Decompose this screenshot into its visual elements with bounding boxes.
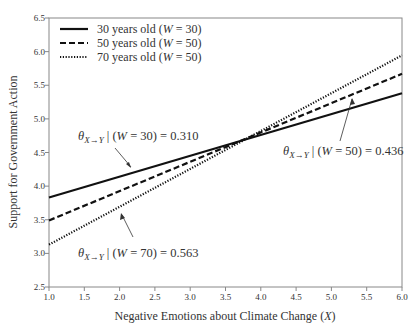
x-axis: 1.01.52.02.53.03.54.04.55.05.56.0 [43, 287, 408, 302]
x-tick-label: 3.5 [220, 292, 232, 302]
y-tick-label: 2.5 [34, 282, 46, 292]
y-tick-label: 6.5 [34, 13, 46, 23]
x-tick-label: 2.5 [149, 292, 161, 302]
y-axis: 2.53.03.54.04.55.05.56.06.5 [34, 13, 49, 292]
legend-label-70: 70 years old (W = 50) [97, 50, 201, 64]
x-tick-label: 2.0 [114, 292, 126, 302]
x-tick-label: 5.5 [361, 292, 373, 302]
x-tick-label: 1.0 [43, 292, 55, 302]
legend-label-30: 30 years old (W = 30) [97, 22, 201, 36]
x-tick-label: 3.0 [185, 292, 197, 302]
line-chart: 2.53.03.54.04.55.05.56.06.5 1.01.52.02.5… [0, 0, 420, 332]
annotation-w30: θX→Y | (W = 30) = 0.310 [78, 129, 198, 168]
x-axis-label: Negative Emotions about Climate Change (… [115, 309, 336, 323]
y-tick-label: 4.5 [34, 148, 46, 158]
arrowhead-icon [126, 162, 131, 168]
svg-text:θX→Y | (W = 30) = 0.310: θX→Y | (W = 30) = 0.310 [78, 129, 198, 145]
x-tick-label: 4.0 [255, 292, 267, 302]
x-tick-label: 4.5 [290, 292, 302, 302]
y-tick-label: 3.0 [34, 248, 46, 258]
y-tick-label: 6.0 [34, 47, 46, 57]
arrowhead-icon [350, 98, 355, 105]
annotation-w70: θX→Y | (W = 70) = 0.563 [78, 213, 198, 262]
legend: 30 years old (W = 30) 50 years old (W = … [60, 22, 201, 64]
svg-text:θX→Y | (W = 70) = 0.563: θX→Y | (W = 70) = 0.563 [78, 246, 198, 262]
y-tick-label: 5.5 [34, 80, 46, 90]
annotation-w50: θX→Y | (W = 50) = 0.436 [283, 98, 403, 160]
svg-text:θX→Y | (W = 50) = 0.436: θX→Y | (W = 50) = 0.436 [283, 144, 403, 160]
x-tick-label: 5.0 [326, 292, 338, 302]
y-tick-label: 3.5 [34, 215, 46, 225]
x-tick-label: 1.5 [79, 292, 91, 302]
y-axis-label: Support for Government Action [6, 76, 20, 229]
x-tick-label: 6.0 [396, 292, 408, 302]
arrow-w50 [340, 99, 352, 141]
y-tick-label: 5.0 [34, 114, 46, 124]
y-tick-label: 4.0 [34, 181, 46, 191]
legend-label-50: 50 years old (W = 50) [97, 36, 201, 50]
